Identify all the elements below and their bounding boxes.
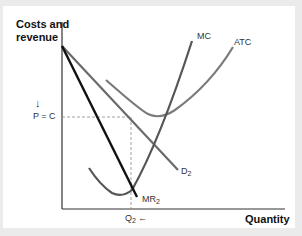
y-axis-title: Costs and revenue: [16, 18, 56, 44]
d2-label-sub: 2: [188, 170, 192, 177]
q2-label: Q2←: [125, 213, 147, 224]
quantity-left-arrow-icon: ←: [138, 213, 147, 223]
price-down-arrow-icon: ↓: [35, 97, 41, 109]
p-equals-c-label: P = C: [33, 111, 56, 121]
mc-curve: [89, 41, 192, 195]
y-axis-title-line2: revenue: [16, 31, 56, 44]
x-axis-title: Quantity: [245, 213, 290, 226]
mr2-label-base: MR: [142, 194, 156, 204]
mr-curve-mr2: [62, 46, 137, 197]
y-axis-title-line1: Costs and: [16, 18, 56, 31]
demand-curve-d2: [62, 46, 178, 170]
q2-label-sub: 2: [132, 217, 136, 224]
mc-label: MC: [197, 31, 211, 41]
q2-label-base: Q: [125, 213, 132, 223]
atc-label: ATC: [234, 37, 251, 47]
mr2-label: MR2: [142, 194, 160, 205]
d2-label: D2: [181, 166, 191, 177]
mr2-label-sub: 2: [156, 198, 160, 205]
